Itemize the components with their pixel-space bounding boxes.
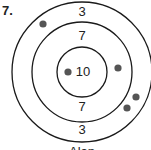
dart-hit-dot [132,93,139,100]
ring-score-label: 7 [78,28,85,43]
dart-hit-dot [114,64,121,71]
ring-score-label: 3 [78,122,85,137]
caption-name: Alan [69,144,95,150]
dartboard-figure: 7. 371073 Alan [0,0,151,150]
ring-score-labels: 371073 [76,4,90,137]
dart-hit-dot [64,68,71,75]
problem-number: 7. [2,3,13,18]
ring-score-label: 7 [78,99,85,114]
ring-score-label: 10 [76,64,90,79]
ring-score-label: 3 [78,4,85,19]
dart-hit-dot [39,20,46,27]
dart-hit-dot [123,104,130,111]
